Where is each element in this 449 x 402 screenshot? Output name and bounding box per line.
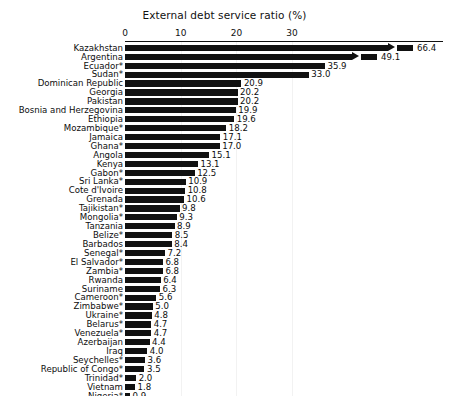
bar [125,89,238,95]
bar [125,63,325,69]
value-label: 1.8 [138,383,152,392]
value-label: 6.4 [163,276,177,285]
x-axis-line [125,41,443,42]
bar [125,143,220,149]
bar [125,250,165,256]
category-label: Kazakhstan [73,44,123,53]
bar [125,223,175,229]
bar-row: Republic of Congo*3.5 [0,365,449,374]
bar-row: Iraq4.0 [0,347,449,356]
bar-row: Argentina49.1 [0,52,449,61]
bar-row: Belarus*4.7 [0,320,449,329]
bar [125,348,147,354]
bar [125,161,198,167]
bar-row: Mongolia*9.3 [0,213,449,222]
bar [125,241,172,247]
bar-row: Tajikistan*9.8 [0,204,449,213]
category-label: Argentina [81,53,123,62]
bar-row: Senegal*7.2 [0,249,449,258]
bar [125,268,163,274]
bar-row: El Salvador*6.8 [0,258,449,267]
bar-row: Bosnia and Herzegovina19.9 [0,106,449,115]
plot-area: 0102030 Kazakhstan66.4Argentina49.1Ecuad… [0,0,449,402]
value-label: 66.4 [417,44,436,53]
bar-row: Zambia*6.8 [0,267,449,276]
bar-row: Belize*8.5 [0,231,449,240]
bar [125,259,163,265]
bar [125,286,160,292]
bar [125,303,153,309]
value-label: 49.1 [381,53,400,62]
bar [125,196,184,202]
value-label: 33.0 [311,70,330,79]
bar-row: Venezuela*4.7 [0,329,449,338]
bar [125,45,388,51]
axis-break-arrow-icon [388,43,395,51]
bar [125,72,309,78]
x-tick-label-30: 30 [286,28,297,38]
bar-row: Barbados8.4 [0,240,449,249]
bar [125,134,220,140]
bar [125,232,172,238]
bar-row: Azerbaijan4.4 [0,338,449,347]
bar [125,54,352,60]
bar [125,188,185,194]
bar-row: Zimbabwe*5.0 [0,302,449,311]
x-tick-label-20: 20 [231,28,242,38]
bar-row: Suriname6.3 [0,284,449,293]
bar [125,366,144,372]
category-label: Zambia* [86,267,123,276]
bar [125,375,136,381]
bar-row: Angola15.1 [0,151,449,160]
bar-row: Tanzania8.9 [0,222,449,231]
bar-row: Gabon*12.5 [0,168,449,177]
bar-chart: External debt service ratio (%) 0102030 … [0,0,449,402]
category-label: Rwanda [89,276,123,285]
bar [125,339,150,345]
bar [125,384,135,390]
bar-row: Dominican Republic20.9 [0,79,449,88]
bar-row: Cote d'Ivoire10.8 [0,186,449,195]
bar-row: Trinidad*2.0 [0,374,449,383]
bar [125,116,234,122]
bar-row: Ukraine*4.8 [0,311,449,320]
value-label: 6.8 [165,267,179,276]
axis-break-stub [361,54,377,60]
bar [125,170,195,176]
value-label: 13.1 [200,160,219,169]
bar [125,357,145,363]
bar-row: Georgia20.2 [0,88,449,97]
category-label: Vietnam [87,383,123,392]
bar [125,152,209,158]
bar [125,179,186,185]
bar [125,312,152,318]
bar [125,321,151,327]
bar [125,277,161,283]
bar-row: Grenada10.6 [0,195,449,204]
x-tick-label-0: 0 [122,28,128,38]
bar [125,107,236,113]
axis-break-arrow-icon [352,52,359,60]
bar-row: Rwanda6.4 [0,275,449,284]
bar [125,330,151,336]
bar [125,98,238,104]
bar-row: Cameroon*5.6 [0,293,449,302]
caption-strip [0,396,449,402]
bar-row: Vietnam1.8 [0,382,449,391]
bar [125,295,156,301]
value-label: 35.9 [327,62,346,71]
bar [125,125,226,131]
bar-row: Ecuador*35.9 [0,61,449,70]
bar-row: Kenya13.1 [0,159,449,168]
bar [125,80,241,86]
x-tick-label-10: 10 [175,28,186,38]
bar [125,205,180,211]
bar-row: Sri Lanka*10.9 [0,177,449,186]
bar [125,214,177,220]
category-label: Kenya [97,160,123,169]
axis-break-stub [397,45,413,51]
